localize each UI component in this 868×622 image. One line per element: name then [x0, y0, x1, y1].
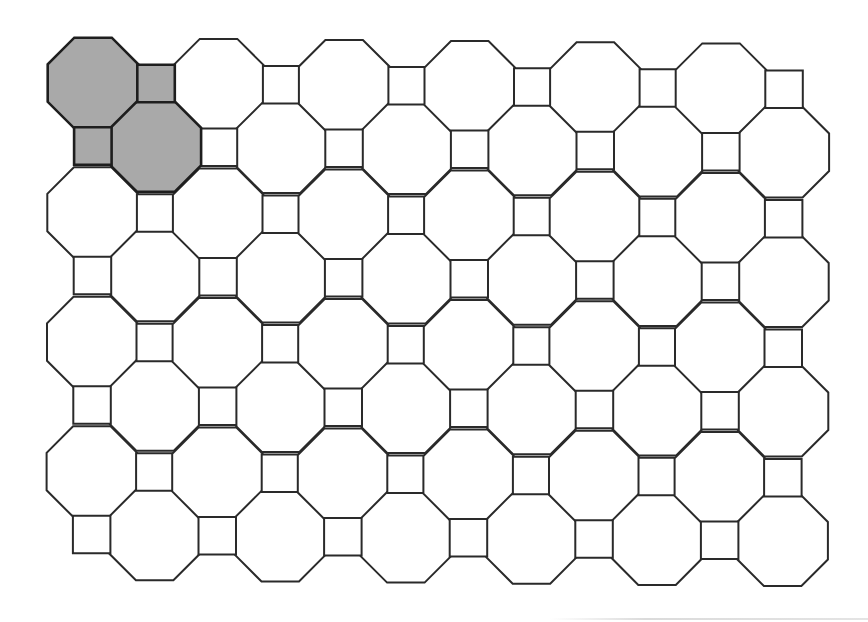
square-tile-h-1-3 — [262, 454, 300, 492]
square-tile-h-1-2 — [262, 325, 300, 363]
square-tile-h-5-2 — [765, 330, 803, 368]
square-tile-h-3-0 — [514, 68, 552, 106]
square-tile-h-1-0 — [263, 66, 301, 104]
square-tile-v-2-1 — [325, 259, 363, 297]
square-tile-v-5-0 — [702, 133, 740, 171]
square-tile-v-1-3 — [199, 517, 237, 555]
square-tile-h-1-1 — [263, 195, 301, 233]
square-tile-v-0-2 — [73, 386, 111, 424]
square-tile-h-4-2 — [639, 328, 677, 366]
square-tile-h-3-2 — [513, 327, 551, 365]
square-tile-h-0-2 — [137, 324, 175, 362]
octagon-tile-b-5-2 — [738, 366, 829, 457]
square-tile-h-5-1 — [765, 200, 803, 238]
square-tile-h-2-2 — [388, 326, 426, 364]
square-tile-v-3-1 — [451, 260, 489, 298]
highlighted-octagon-tile-b-0-0 — [111, 101, 202, 192]
square-tile-v-3-2 — [450, 390, 488, 428]
square-tile-v-2-2 — [325, 389, 363, 427]
square-tile-v-5-1 — [702, 262, 740, 300]
square-tile-h-5-0 — [765, 71, 803, 109]
square-tile-v-3-0 — [451, 131, 489, 169]
highlighted-square-tile-h-0-0 — [137, 65, 175, 103]
square-tile-h-2-1 — [388, 197, 426, 235]
square-tile-h-4-3 — [639, 458, 677, 496]
square-tile-v-2-3 — [324, 518, 362, 556]
octagon-tile-b-5-0 — [739, 107, 830, 198]
highlighted-square-tile-v-0-0 — [74, 127, 112, 165]
square-tile-v-5-3 — [701, 521, 739, 559]
square-tile-v-4-0 — [577, 132, 615, 170]
square-tile-v-1-0 — [200, 128, 238, 166]
square-tile-v-0-3 — [73, 516, 111, 554]
square-tile-h-4-0 — [640, 69, 678, 107]
square-tile-h-5-3 — [764, 459, 802, 497]
square-tile-h-4-1 — [639, 199, 677, 237]
square-tile-h-2-3 — [387, 456, 425, 494]
octagon-square-tiling — [0, 0, 868, 622]
square-tile-v-4-3 — [575, 520, 613, 558]
scan-artifact-line — [550, 618, 868, 620]
square-tile-h-0-3 — [136, 453, 174, 491]
square-tile-v-5-2 — [701, 392, 739, 430]
square-tile-h-0-1 — [137, 194, 175, 232]
square-tile-h-3-3 — [513, 457, 551, 495]
square-tile-h-2-0 — [388, 67, 426, 105]
octagon-tile-b-5-1 — [738, 237, 829, 328]
square-tile-v-1-2 — [199, 387, 237, 425]
square-tile-v-4-1 — [576, 261, 614, 299]
square-tile-v-4-2 — [576, 391, 614, 429]
square-tile-v-3-3 — [450, 519, 488, 557]
square-tile-v-0-1 — [74, 257, 112, 295]
square-tile-h-3-1 — [514, 198, 552, 236]
octagon-tile-b-5-3 — [737, 496, 828, 587]
square-tile-v-1-1 — [199, 258, 237, 296]
square-tile-v-2-0 — [325, 130, 363, 168]
